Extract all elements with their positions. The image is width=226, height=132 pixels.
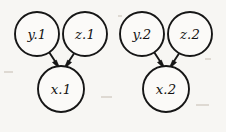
node-z2[interactable]: z.2 bbox=[168, 12, 212, 56]
node-z1-label: z.1 bbox=[74, 27, 95, 42]
node-y1[interactable]: y.1 bbox=[15, 12, 59, 56]
node-x2[interactable]: x.2 bbox=[143, 66, 189, 112]
node-x1[interactable]: x.1 bbox=[38, 66, 84, 112]
node-y2[interactable]: y.2 bbox=[120, 12, 164, 56]
dag-diagram: y.1 z.1 y.2 z.2 x.1 x.2 bbox=[0, 0, 226, 132]
dag-canvas: y.1 z.1 y.2 z.2 x.1 x.2 bbox=[0, 0, 226, 132]
node-y2-label: y.2 bbox=[132, 27, 152, 42]
node-y1-label: y.1 bbox=[27, 27, 47, 42]
node-z1[interactable]: z.1 bbox=[63, 12, 107, 56]
node-z2-label: z.2 bbox=[179, 27, 200, 42]
node-x2-label: x.2 bbox=[156, 82, 177, 97]
node-x1-label: x.1 bbox=[51, 82, 72, 97]
nodes-group: y.1 z.1 y.2 z.2 x.1 x.2 bbox=[15, 12, 212, 112]
